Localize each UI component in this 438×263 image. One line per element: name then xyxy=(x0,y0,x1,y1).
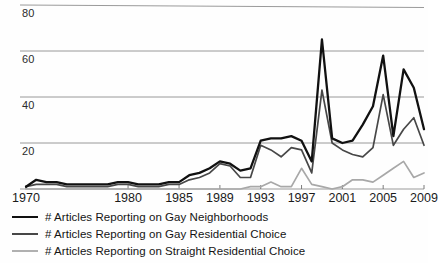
data-series-group xyxy=(26,40,424,190)
legend-line-swatch xyxy=(12,216,38,218)
x-axis-tick-label: 2009 xyxy=(410,192,438,205)
x-axis-tick-label: 1997 xyxy=(288,192,316,205)
x-axis-tick-label: 1993 xyxy=(247,192,275,205)
legend-item: # Articles Reporting on Gay Residential … xyxy=(12,225,428,242)
legend-label: # Articles Reporting on Gay Residential … xyxy=(45,228,286,240)
legend-item: # Articles Reporting on Gay Neighborhood… xyxy=(12,208,428,225)
legend-label: # Articles Reporting on Gay Neighborhood… xyxy=(45,211,268,223)
chart-canvas xyxy=(0,0,428,200)
legend-item: # Articles Reporting on Straight Residen… xyxy=(12,242,428,259)
x-axis-tick-label: 2001 xyxy=(328,192,356,205)
chart-legend: # Articles Reporting on Gay Neighborhood… xyxy=(12,208,428,259)
x-axis-tick-label: 1980 xyxy=(114,192,142,205)
data-series-line xyxy=(26,90,424,187)
legend-label: # Articles Reporting on Straight Residen… xyxy=(45,245,305,257)
x-axis-tick-label: 1989 xyxy=(206,192,234,205)
x-axis-tick-label: 1970 xyxy=(12,192,40,205)
legend-line-swatch xyxy=(12,233,38,235)
y-axis-tick-label: 40 xyxy=(22,100,35,111)
x-axis-tick-label: 2005 xyxy=(369,192,397,205)
gridline xyxy=(20,5,424,8)
x-axis-tick-label: 1985 xyxy=(165,192,193,205)
y-axis-tick-label: 80 xyxy=(22,8,35,19)
y-axis-tick-label: 60 xyxy=(22,54,35,65)
legend-line-swatch xyxy=(12,250,38,252)
plot-area: 20406080 1970198019851989199319972001200… xyxy=(0,0,428,200)
y-axis-tick-label: 20 xyxy=(22,146,35,157)
